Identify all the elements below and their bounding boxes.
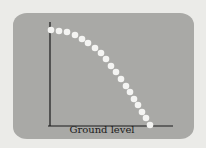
trajectory-dot bbox=[48, 27, 55, 34]
trajectory-dot bbox=[103, 56, 110, 63]
trajectory-dot bbox=[79, 36, 86, 43]
trajectory-dot bbox=[85, 40, 92, 47]
trajectory-dot bbox=[72, 32, 79, 39]
trajectory-dot bbox=[118, 76, 125, 83]
trajectory-dot bbox=[143, 115, 150, 122]
trajectory-dot bbox=[127, 89, 134, 96]
trajectory-dot bbox=[108, 63, 115, 70]
trajectory-dot bbox=[139, 109, 146, 116]
trajectory-dots bbox=[48, 27, 154, 129]
trajectory-dot bbox=[113, 69, 120, 76]
trajectory-dot bbox=[123, 83, 130, 90]
trajectory-dot bbox=[135, 102, 142, 109]
trajectory-dot bbox=[147, 122, 154, 129]
ground-level-label: Ground level bbox=[62, 124, 142, 135]
trajectory-dot bbox=[131, 96, 138, 103]
trajectory-dot bbox=[98, 50, 105, 57]
trajectory-dot bbox=[56, 28, 63, 35]
trajectory-dot bbox=[64, 29, 71, 36]
trajectory-dot bbox=[92, 45, 99, 52]
